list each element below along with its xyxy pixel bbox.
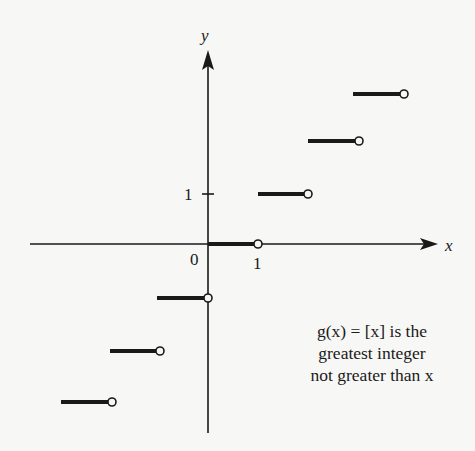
x-tick-label-1: 1 [253,254,262,273]
y-tick-label-1: 1 [184,185,193,204]
open-circle-icon [254,240,262,248]
open-circle-icon [204,294,212,302]
caption-line-3: not greater than x [272,364,472,386]
y-axis-label: y [199,26,209,45]
caption-line-1: g(x) = [x] is the [272,320,472,342]
open-circle-icon [304,190,312,198]
x-axis-label: x [444,236,453,255]
open-circle-icon [108,398,116,406]
origin-label: 0 [190,250,199,269]
caption-line-2: greatest integer [272,342,472,364]
open-circle-icon [400,90,408,98]
open-circle-icon [355,137,363,145]
open-circle-icon [156,347,164,355]
function-caption: g(x) = [x] is the greatest integer not g… [272,320,472,386]
